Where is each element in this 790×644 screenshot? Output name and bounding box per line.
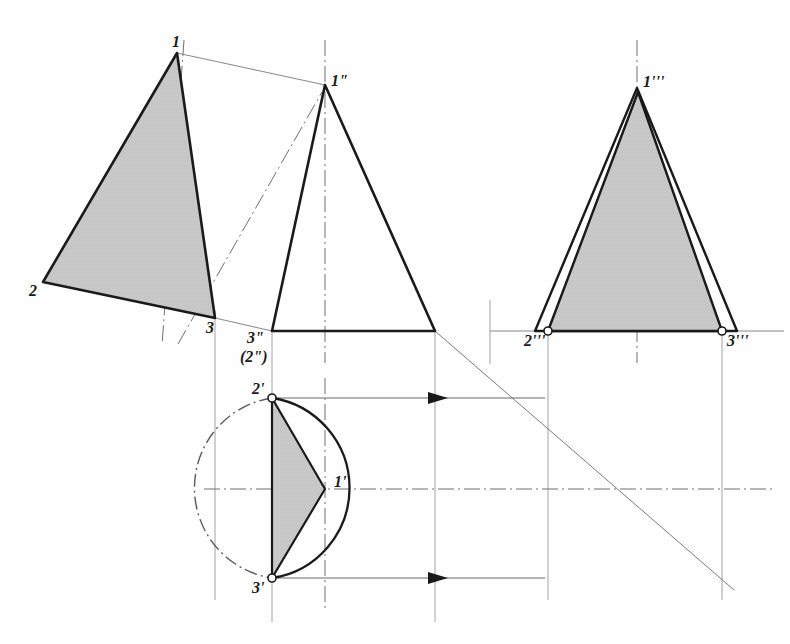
vertex-label-v2ppp: 2''' xyxy=(524,333,545,349)
vertex-label-v2: 2 xyxy=(29,283,37,299)
vertex-label-v1ppp: 1''' xyxy=(643,74,664,90)
point-marker-3prime xyxy=(268,574,276,582)
drawing-sheet: 1231"3"(2")2'1'3'1'''2'''3''' xyxy=(0,0,790,644)
technical-drawing-canvas xyxy=(0,0,790,644)
vertex-label-v3pp: 3" xyxy=(247,330,264,346)
vertex-label-v1: 1 xyxy=(172,34,180,50)
point-marker-2prime xyxy=(268,394,276,402)
vertex-label-v1pp: 1" xyxy=(331,73,348,89)
vertex-label-v3ppp: 3''' xyxy=(727,333,748,349)
vertex-label-v2p: 2' xyxy=(252,381,264,397)
vertex-label-v2pp: (2") xyxy=(240,349,268,365)
vertex-label-v1p: 1' xyxy=(334,474,346,490)
vertex-label-v3: 3 xyxy=(206,320,214,336)
point-marker-3triple xyxy=(718,327,726,335)
vertex-label-v3p: 3' xyxy=(252,580,264,596)
